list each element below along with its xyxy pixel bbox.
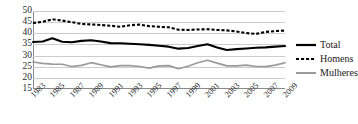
series-line-total [33, 38, 285, 50]
plot-area [33, 11, 285, 89]
legend-item-mulheres: Mulheres [296, 66, 358, 80]
chart-legend: Total Homens Mulheres [296, 38, 358, 80]
y-tick-label: 40 [12, 28, 32, 38]
dashed-line-swatch-icon [296, 54, 316, 64]
line-chart: 5045403530252015 19831985198719891991199… [0, 0, 358, 124]
y-tick-label: 30 [12, 51, 32, 61]
legend-label-total: Total [320, 40, 340, 50]
y-tick-label: 20 [12, 73, 32, 83]
y-tick-label: 45 [12, 17, 32, 27]
y-tick-label: 35 [12, 39, 32, 49]
legend-item-homens: Homens [296, 52, 358, 66]
y-tick-label: 15 [12, 84, 32, 94]
series-line-mulheres [33, 60, 285, 68]
legend-item-total: Total [296, 38, 358, 52]
solid-line-swatch-icon [296, 40, 316, 50]
series-line-homens [33, 19, 285, 34]
legend-label-mulheres: Mulheres [320, 68, 358, 78]
series-container [33, 11, 285, 89]
legend-label-homens: Homens [320, 54, 353, 64]
gray-line-swatch-icon [296, 68, 316, 78]
y-tick-label: 25 [12, 62, 32, 72]
y-tick-label: 50 [12, 6, 32, 16]
